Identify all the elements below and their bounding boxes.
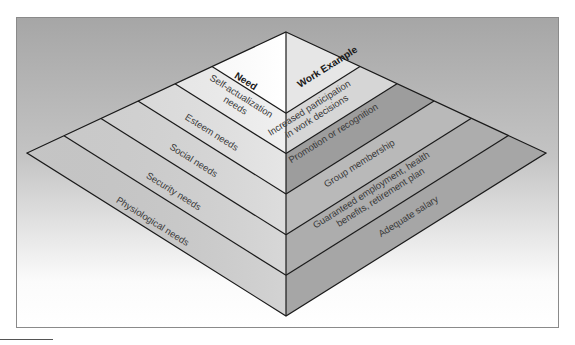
footnote-rule — [0, 339, 53, 340]
pyramid-diagram: Need Self-actualization needs Esteem nee… — [0, 0, 575, 345]
